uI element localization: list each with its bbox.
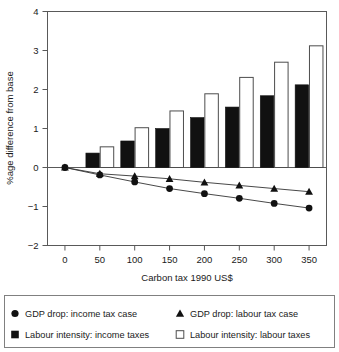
x-axis: 050100150200250300350: [62, 246, 317, 265]
bar-light: [309, 46, 323, 168]
bar-dark: [260, 96, 274, 168]
legend-marker-circle: [11, 310, 18, 317]
data-point-circle: [306, 205, 313, 212]
data-point-circle: [201, 190, 208, 197]
data-point-circle: [131, 179, 138, 186]
legend-marker-square-filled: [11, 331, 19, 339]
x-tick-label: 100: [127, 254, 143, 265]
y-tick-label: 4: [33, 6, 38, 17]
bar-light: [100, 147, 114, 168]
legend-label-gdp-income: GDP drop: income tax case: [25, 309, 137, 319]
y-tick-label: −1: [28, 201, 39, 212]
x-tick-label: 300: [266, 254, 282, 265]
data-point-circle: [271, 200, 278, 207]
x-tick-label: 350: [301, 254, 317, 265]
legend-marker-square-open: [176, 331, 184, 339]
chart-figure: −2−101234 050100150200250300350 Carbon t…: [0, 0, 339, 352]
legend-label-li-labour: Labour intensity: labour taxes: [190, 330, 310, 340]
y-tick-label: −2: [28, 240, 39, 251]
line-series-gdp-drop-labour-tax-case: [61, 164, 313, 195]
bar-dark: [156, 129, 170, 168]
x-tick-label: 0: [62, 254, 67, 265]
bar-light: [275, 62, 289, 167]
y-axis: −2−101234: [28, 6, 48, 251]
x-tick-label: 250: [231, 254, 247, 265]
x-tick-label: 50: [95, 254, 106, 265]
legend-label-gdp-labour: GDP drop: labour tax case: [190, 309, 298, 319]
bar-dark: [121, 141, 135, 168]
bar-dark: [86, 153, 100, 167]
x-tick-label: 150: [162, 254, 178, 265]
x-axis-title: Carbon tax 1990 US$: [141, 272, 233, 283]
data-point-circle: [236, 195, 243, 202]
y-tick-label: 2: [33, 84, 38, 95]
y-tick-label: 1: [33, 123, 38, 134]
carbon-tax-chart: −2−101234 050100150200250300350 Carbon t…: [0, 0, 339, 352]
bar-dark: [225, 107, 239, 167]
bar-light: [240, 77, 254, 167]
x-tick-label: 200: [197, 254, 213, 265]
legend-label-li-income: Labour intensity: income taxes: [25, 330, 150, 340]
bar-dark: [295, 85, 309, 168]
y-tick-label: 3: [33, 45, 38, 56]
y-tick-label: 0: [33, 162, 38, 173]
bar-dark: [191, 118, 205, 168]
bar-light: [135, 128, 149, 168]
data-point-circle: [166, 185, 173, 192]
bar-light: [170, 111, 184, 168]
y-axis-title: %age difference from base: [4, 71, 15, 184]
bar-light: [205, 94, 219, 168]
chart-legend: GDP drop: income tax case GDP drop: labo…: [5, 296, 335, 348]
